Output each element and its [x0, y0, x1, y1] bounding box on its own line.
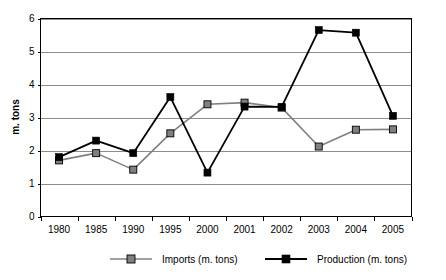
data-point-1985: [93, 150, 100, 157]
legend-item-imports[interactable]: Imports (m. tons): [110, 254, 238, 265]
y-tick-label-6: 6: [29, 13, 35, 24]
data-point-1990: [130, 150, 137, 157]
data-point-2001: [241, 103, 248, 110]
legend-marker-swatch: [282, 255, 290, 263]
data-point-2004: [352, 126, 359, 133]
y-tick-label-4: 4: [29, 79, 35, 90]
y-tick-label-3: 3: [29, 112, 35, 123]
data-point-2003: [315, 143, 322, 150]
y-axis-title: m. tons: [10, 99, 21, 135]
legend-marker-swatch: [127, 255, 135, 263]
data-point-2005: [389, 112, 396, 119]
line-chart: 6543210 m. tons 198019851990199520002001…: [0, 0, 446, 280]
x-tick-label-2003: 2003: [308, 224, 331, 235]
x-tick-label-2002: 2002: [271, 224, 294, 235]
chart-background: [0, 0, 446, 280]
data-point-1990: [130, 166, 137, 173]
data-point-2004: [352, 29, 359, 36]
data-point-1995: [167, 130, 174, 137]
legend-label: Production (m. tons): [317, 254, 407, 265]
x-tick-label-2001: 2001: [233, 224, 256, 235]
y-tick-label-0: 0: [29, 211, 35, 222]
y-tick-label-1: 1: [29, 178, 35, 189]
x-tick-label-1995: 1995: [159, 224, 182, 235]
data-point-1985: [93, 137, 100, 144]
y-tick-label-5: 5: [29, 46, 35, 57]
data-point-2005: [389, 126, 396, 133]
legend-label: Imports (m. tons): [162, 254, 238, 265]
data-point-2003: [315, 27, 322, 34]
data-point-2000: [204, 169, 211, 176]
data-point-2002: [278, 103, 285, 110]
data-point-1980: [56, 154, 63, 161]
data-point-2000: [204, 101, 211, 108]
chart-canvas: 6543210 m. tons 198019851990199520002001…: [0, 0, 446, 280]
data-point-1995: [167, 94, 174, 101]
x-tick-label-2004: 2004: [345, 224, 368, 235]
x-tick-label-1990: 1990: [122, 224, 145, 235]
x-tick-label-1980: 1980: [48, 224, 71, 235]
x-tick-label-2000: 2000: [196, 224, 219, 235]
legend-item-production[interactable]: Production (m. tons): [265, 254, 407, 265]
x-tick-label-1985: 1985: [85, 224, 108, 235]
y-tick-label-2: 2: [29, 145, 35, 156]
x-tick-label-2005: 2005: [382, 224, 405, 235]
